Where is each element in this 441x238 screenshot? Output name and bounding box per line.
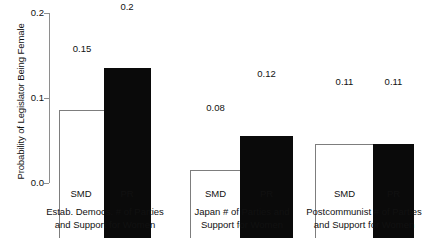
x-tick-label-pr: PR <box>368 188 419 199</box>
y-axis-line <box>49 13 50 183</box>
x-tick-label-smd: SMD <box>319 188 370 199</box>
bar-chart-figure: Probability of Legislator Being Female 0… <box>0 0 441 238</box>
y-tick-mark <box>44 13 49 14</box>
x-tick-label-pr: PR <box>102 188 152 199</box>
bar-value-label-pr: 0.2 <box>102 1 152 12</box>
bar-value-label-smd: 0.08 <box>190 102 241 113</box>
y-tick-mark <box>44 98 49 99</box>
bar-value-label-pr: 0.12 <box>240 68 293 79</box>
bar-value-label-smd: 0.15 <box>57 43 107 54</box>
panel-caption-line2: and Support for Women <box>279 218 441 231</box>
bar-value-label-smd: 0.11 <box>317 76 372 87</box>
x-tick-label-smd: SMD <box>56 188 106 199</box>
y-tick-mark <box>44 183 49 184</box>
y-tick-label: 0.0 <box>4 177 44 188</box>
bar-value-label-pr: 0.11 <box>368 76 419 87</box>
y-tick-label: 0.2 <box>4 7 44 18</box>
y-tick-label: 0.1 <box>4 92 44 103</box>
x-tick-label-smd: SMD <box>190 188 241 199</box>
x-tick-label-pr: PR <box>240 188 293 199</box>
panel-caption: Postcommunist # of Parties and Support f… <box>279 205 441 231</box>
panel-caption-line1: Postcommunist # of Parties <box>279 205 441 218</box>
